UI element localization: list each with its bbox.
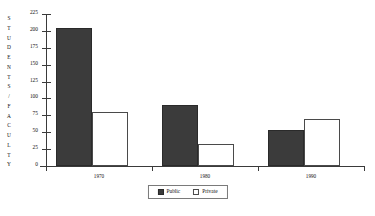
y-axis-title: STUDENTS/FACULTY	[3, 16, 15, 168]
bar-private-1990	[304, 119, 340, 166]
y-axis-tick: 50	[42, 132, 51, 133]
y-axis-tick-label: 175	[30, 44, 38, 49]
legend-item-private: Private	[193, 189, 217, 195]
y-axis-tick: 75	[42, 115, 51, 116]
y-axis-tick: 25	[42, 149, 51, 150]
legend-swatch-icon	[157, 189, 163, 195]
x-axis-label-1990: 1990	[306, 174, 316, 179]
x-axis-line	[40, 166, 364, 167]
y-axis-title-letter: C	[7, 123, 11, 128]
y-axis-title-letter: S	[8, 84, 11, 89]
y-axis-title-letter: /	[8, 94, 10, 99]
y-axis-title-letter: A	[7, 114, 11, 119]
y-axis-tick-label: 100	[30, 94, 38, 99]
y-axis-title-letter: U	[7, 133, 11, 138]
y-axis-tick: 225	[42, 14, 51, 15]
legend-swatch-icon	[193, 189, 199, 195]
y-axis-title-letter: F	[8, 104, 11, 109]
y-axis-line	[46, 14, 47, 166]
bar-public-1980	[162, 105, 198, 166]
bar-private-1980	[198, 144, 234, 166]
y-axis-title-letter: Y	[7, 162, 11, 167]
y-axis-tick-label: 25	[33, 145, 38, 150]
x-axis-label-1980: 1980	[200, 174, 210, 179]
bar-public-1970	[56, 28, 92, 166]
x-axis-separator-tick	[46, 166, 47, 171]
bar-private-1970	[92, 112, 128, 166]
y-axis-tick: 125	[42, 82, 51, 83]
y-axis-title-letter: T	[7, 75, 10, 80]
y-axis-tick: 175	[42, 48, 51, 49]
x-axis-separator-tick	[152, 166, 153, 171]
x-axis-label-1970: 1970	[94, 174, 104, 179]
y-axis-tick-label: 150	[30, 61, 38, 66]
y-axis-title-letter: T	[7, 26, 10, 31]
legend-item-public: Public	[157, 189, 180, 195]
y-axis-tick-label: 125	[30, 78, 38, 83]
y-axis-tick-label: 225	[30, 10, 38, 15]
chart-legend: PublicPrivate	[147, 185, 227, 199]
y-axis-title-letter: T	[7, 153, 10, 158]
y-axis-tick-label: 0	[35, 162, 38, 167]
legend-label: Private	[202, 189, 217, 194]
y-axis-tick: 100	[42, 98, 51, 99]
plot-area: 0255075100125150175200225 197019801990	[46, 14, 364, 166]
y-axis-title-letter: N	[7, 65, 11, 70]
y-axis-tick-label: 50	[33, 128, 38, 133]
bar-public-1990	[268, 130, 304, 166]
y-axis-tick: 200	[42, 31, 51, 32]
legend-label: Public	[166, 189, 180, 194]
y-axis-tick: 150	[42, 65, 51, 66]
x-axis-separator-tick	[258, 166, 259, 171]
y-axis-title-letter: L	[7, 143, 10, 148]
y-axis-title-letter: S	[8, 16, 11, 21]
bar-chart: STUDENTS/FACULTY 02550751001251501752002…	[0, 0, 375, 216]
y-axis-title-letter: U	[7, 36, 11, 41]
y-axis-title-letter: E	[7, 55, 10, 60]
y-axis-title-letter: D	[7, 45, 11, 50]
y-axis-tick-label: 200	[30, 27, 38, 32]
y-axis-tick-label: 75	[33, 111, 38, 116]
x-axis-separator-tick	[364, 166, 365, 171]
